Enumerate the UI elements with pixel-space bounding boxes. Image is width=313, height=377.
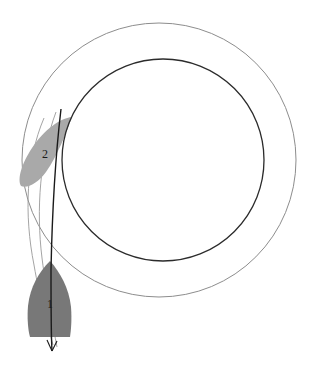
body-2-label: 2 bbox=[42, 147, 48, 161]
body-1-label: 1 bbox=[47, 297, 53, 311]
figure-container: 2 1 bbox=[0, 0, 313, 377]
orbit-diagram: 2 1 bbox=[0, 0, 313, 377]
